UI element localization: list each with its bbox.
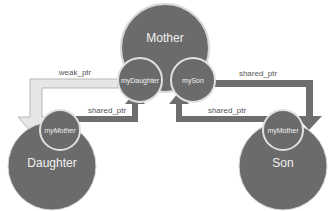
node-mother [118, 4, 215, 102]
shared-ptr-label-daughter-to-mother: shared_ptr [88, 106, 127, 115]
ownership-diagram: Mother myDaughter mySon Daughter myMothe… [0, 0, 328, 211]
daughter-my-mother-label: myMother [44, 127, 76, 135]
son-label: Son [272, 156, 293, 170]
my-son-label: mySon [182, 77, 204, 85]
shared-ptr-label-son-to-mother: shared_ptr [208, 106, 247, 115]
son-my-mother-label: myMother [267, 127, 299, 135]
shared-ptr-label-mother-to-son: shared_ptr [239, 69, 278, 78]
daughter-label: Daughter [27, 156, 76, 170]
my-daughter-label: myDaughter [121, 77, 160, 85]
mother-label: Mother [146, 31, 183, 45]
weak-ptr-label: weak_ptr [58, 68, 92, 77]
